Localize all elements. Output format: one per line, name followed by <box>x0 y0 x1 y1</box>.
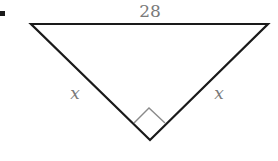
right-angle-marker <box>134 108 165 123</box>
triangle-diagram: 28 x x <box>0 0 278 161</box>
left-leg-label: x <box>70 83 80 103</box>
triangle <box>31 24 268 140</box>
hypotenuse-label: 28 <box>139 1 161 21</box>
bullet-dot <box>0 11 5 16</box>
right-leg-label: x <box>214 83 224 103</box>
